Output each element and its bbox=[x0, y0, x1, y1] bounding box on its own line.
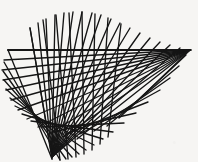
figure-container bbox=[0, 0, 198, 162]
line-envelope-figure bbox=[0, 0, 198, 162]
